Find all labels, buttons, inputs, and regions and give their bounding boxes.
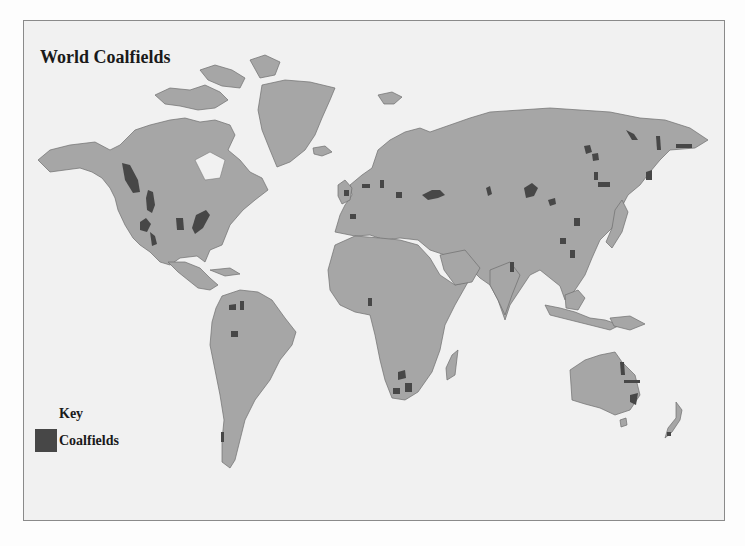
iceland [313, 146, 332, 156]
world-map [0, 0, 745, 546]
indonesia [545, 305, 620, 330]
north-america [38, 55, 280, 290]
australia [570, 352, 640, 415]
new-guinea [610, 316, 645, 330]
key-item-coalfields: Coalfields [35, 429, 119, 452]
key-item-label: Coalfields [59, 433, 119, 449]
madagascar [446, 350, 458, 380]
svalbard [378, 92, 402, 104]
map-title: World Coalfields [40, 47, 171, 68]
tasmania [620, 418, 627, 427]
key-title: Key [59, 406, 83, 422]
coalfields-swatch [35, 429, 57, 452]
